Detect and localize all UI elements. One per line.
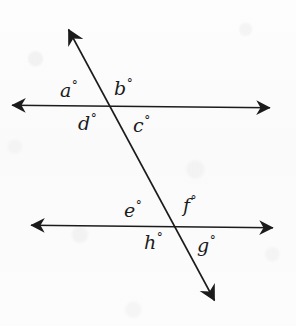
angle-label-a: a° xyxy=(60,80,78,100)
angle-label-c-letter: c xyxy=(133,114,144,136)
degree-sign-icon: ° xyxy=(136,199,142,213)
angle-label-d-letter: d xyxy=(78,112,90,134)
degree-sign-icon: ° xyxy=(127,77,133,91)
degree-sign-icon: ° xyxy=(157,231,163,245)
degree-sign-icon: ° xyxy=(144,114,150,128)
angle-label-f: f° xyxy=(183,195,197,215)
angle-label-h: h° xyxy=(144,232,163,252)
angle-label-f-letter: f xyxy=(183,194,190,216)
angle-label-g-letter: g xyxy=(197,234,209,256)
angle-label-a-letter: a xyxy=(60,79,71,101)
degree-sign-icon: ° xyxy=(72,79,78,93)
parallel-lines-transversal-diagram xyxy=(0,0,296,326)
degree-sign-icon: ° xyxy=(210,234,216,248)
top-parallel-line xyxy=(12,105,270,108)
angle-label-b-letter: b xyxy=(114,77,126,99)
angle-label-g: g° xyxy=(197,235,216,255)
angle-label-d: d° xyxy=(78,113,97,133)
angle-label-e: e° xyxy=(124,200,142,220)
angle-label-c: c° xyxy=(133,115,150,135)
angle-label-h-letter: h xyxy=(144,231,156,253)
degree-sign-icon: ° xyxy=(91,112,97,126)
bottom-parallel-line xyxy=(31,225,273,228)
geometry-figure: a° b° d° c° e° f° h° g° xyxy=(0,0,296,326)
transversal-line xyxy=(69,30,215,301)
degree-sign-icon: ° xyxy=(191,194,197,208)
angle-label-b: b° xyxy=(114,78,133,98)
angle-label-e-letter: e xyxy=(124,199,135,221)
